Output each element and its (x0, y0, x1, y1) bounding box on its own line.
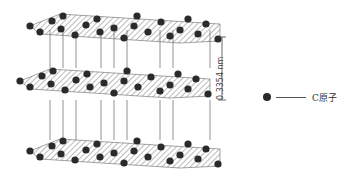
legend-leader-line (276, 97, 306, 98)
carbon-atom (93, 15, 100, 22)
carbon-atom (110, 89, 117, 96)
carbon-atom (96, 153, 103, 160)
carbon-atom (147, 73, 154, 80)
carbon-atom (194, 155, 201, 162)
carbon-atom (72, 76, 79, 83)
carbon-atom (166, 157, 173, 164)
carbon-atom (57, 150, 64, 157)
carbon-atom (110, 149, 117, 156)
carbon-atom (26, 22, 33, 29)
carbon-layer (26, 12, 221, 43)
carbon-atom (144, 153, 151, 160)
carbon-atom-icon (263, 93, 271, 101)
carbon-atom (157, 18, 164, 25)
carbon-atom (176, 151, 183, 158)
carbon-atom (49, 67, 56, 74)
carbon-atom (184, 140, 191, 147)
carbon-atom (133, 12, 140, 19)
carbon-atom (214, 35, 221, 42)
carbon-layers (16, 12, 221, 168)
carbon-atom (166, 81, 173, 88)
carbon-atom (202, 20, 209, 27)
carbon-atom (120, 77, 127, 84)
carbon-atom (184, 85, 191, 92)
legend: C原子 (263, 90, 337, 104)
carbon-atom (82, 21, 89, 28)
carbon-atom (130, 147, 137, 154)
carbon-atom (123, 67, 130, 74)
carbon-atom (71, 156, 78, 163)
carbon-atom (48, 142, 55, 149)
carbon-atom (192, 75, 199, 82)
carbon-atom (83, 70, 90, 77)
carbon-atom (36, 28, 43, 35)
carbon-atom (36, 153, 43, 160)
carbon-atom (157, 143, 164, 150)
carbon-atom (204, 90, 211, 97)
carbon-atom (47, 80, 54, 87)
carbon-atom (57, 25, 64, 32)
layer-spacing-label: 0.3354 nm (216, 57, 225, 100)
carbon-atom (93, 140, 100, 147)
carbon-atom (202, 145, 209, 152)
carbon-atom (48, 17, 55, 24)
carbon-atom (194, 30, 201, 37)
carbon-atom (110, 24, 117, 31)
carbon-atom (144, 28, 151, 35)
carbon-atom (133, 137, 140, 144)
carbon-atom (59, 12, 66, 19)
carbon-atom (100, 79, 107, 86)
carbon-atom (61, 86, 68, 93)
carbon-atom (156, 87, 163, 94)
carbon-atom (174, 70, 181, 77)
carbon-atom (214, 160, 221, 167)
carbon-atom (82, 146, 89, 153)
carbon-atom (120, 159, 127, 166)
carbon-atom (96, 28, 103, 35)
carbon-atom (184, 15, 191, 22)
carbon-atom (176, 26, 183, 33)
carbon-atom (120, 34, 127, 41)
carbon-atom (59, 137, 66, 144)
carbon-atom (26, 147, 33, 154)
carbon-atom (134, 83, 141, 90)
carbon-layer (16, 67, 211, 98)
carbon-atom (166, 32, 173, 39)
carbon-atom (71, 31, 78, 38)
carbon-atom (38, 72, 45, 79)
carbon-atom (26, 83, 33, 90)
carbon-layer (26, 137, 221, 168)
carbon-atom (86, 83, 93, 90)
legend-label: C原子 (312, 91, 337, 104)
carbon-atom (130, 22, 137, 29)
carbon-atom (16, 77, 23, 84)
